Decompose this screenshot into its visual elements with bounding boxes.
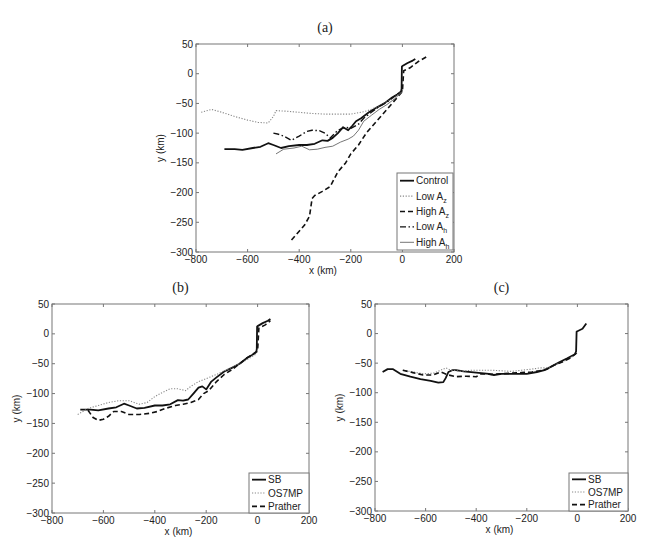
x-tick-label: −400 — [465, 513, 488, 524]
x-axis-label: x (km) — [309, 265, 337, 276]
y-tick-label: −150 — [349, 417, 372, 428]
y-tick-label: −100 — [26, 388, 49, 399]
legend-label: Control — [416, 175, 448, 186]
series-line — [88, 321, 270, 421]
x-tick-label: −600 — [236, 254, 259, 265]
panel-c: (c)−800−600−400−2000200500−50−100−150−20… — [334, 280, 637, 535]
series-line — [403, 353, 578, 377]
panel-title: (c) — [494, 280, 510, 296]
y-tick-label: −300 — [170, 247, 193, 258]
y-tick-label: −200 — [26, 448, 49, 459]
x-tick-label: 200 — [620, 513, 637, 524]
panel-b: (b)−800−600−400−2000200500−50−100−150−20… — [11, 280, 318, 537]
x-tick-label: −200 — [195, 515, 218, 526]
y-tick-label: 0 — [366, 328, 372, 339]
y-tick-label: 0 — [187, 68, 193, 79]
x-axis-label: x (km) — [165, 526, 193, 537]
plot-area — [383, 324, 587, 383]
y-tick-label: −100 — [349, 387, 372, 398]
x-tick-label: 0 — [255, 515, 261, 526]
x-tick-label: −200 — [516, 513, 539, 524]
legend-label: OS7MP — [588, 487, 623, 498]
x-tick-label: −400 — [144, 515, 167, 526]
y-tick-label: −50 — [32, 358, 49, 369]
y-tick-label: −100 — [170, 128, 193, 139]
y-tick-label: −250 — [349, 476, 372, 487]
y-tick-label: −300 — [26, 508, 49, 519]
legend: SBOS7MPPrather — [569, 473, 628, 511]
x-tick-label: 200 — [446, 254, 463, 265]
legend-label: Prather — [588, 499, 621, 510]
y-tick-label: −250 — [26, 478, 49, 489]
series-line — [403, 353, 578, 374]
y-axis-label: y (km) — [11, 395, 22, 423]
legend-label: OS7MP — [268, 488, 303, 499]
figure: (a)−800−600−400−2000200500−50−100−150−20… — [0, 0, 655, 558]
legend-label: SB — [588, 474, 602, 485]
y-axis-label: y (km) — [155, 134, 166, 162]
legend-label: SB — [268, 474, 282, 485]
y-axis-label: y (km) — [334, 394, 345, 422]
legend: ControlLow AzHigh AzLow AhHigh Ah — [397, 173, 453, 250]
y-tick-label: −150 — [170, 157, 193, 168]
y-tick-label: −50 — [355, 358, 372, 369]
panel-a: (a)−800−600−400−2000200500−50−100−150−20… — [155, 20, 463, 276]
y-tick-label: −300 — [349, 506, 372, 517]
series-line — [201, 92, 402, 124]
y-tick-label: 50 — [361, 299, 373, 310]
y-tick-label: 50 — [182, 39, 194, 50]
x-tick-label: −400 — [288, 254, 311, 265]
x-tick-label: 200 — [301, 515, 318, 526]
legend-label: Prather — [268, 501, 301, 512]
y-tick-label: 50 — [38, 299, 50, 310]
legend: SBOS7MPPrather — [249, 473, 309, 513]
plot-area — [78, 319, 271, 421]
x-tick-label: 0 — [575, 513, 581, 524]
y-tick-label: 0 — [43, 328, 49, 339]
y-tick-label: −250 — [170, 217, 193, 228]
y-tick-label: −200 — [170, 187, 193, 198]
series-line — [276, 92, 402, 154]
x-tick-label: −600 — [92, 515, 115, 526]
series-line — [80, 319, 270, 410]
panel-title: (a) — [317, 20, 333, 36]
x-tick-label: 0 — [400, 254, 406, 265]
x-axis-label: x (km) — [486, 524, 514, 535]
panel-title: (b) — [172, 280, 189, 296]
y-tick-label: −150 — [26, 418, 49, 429]
x-tick-label: −600 — [414, 513, 437, 524]
x-tick-label: −200 — [340, 254, 363, 265]
plot-area — [201, 56, 428, 240]
y-tick-label: −200 — [349, 446, 372, 457]
y-tick-label: −50 — [176, 98, 193, 109]
